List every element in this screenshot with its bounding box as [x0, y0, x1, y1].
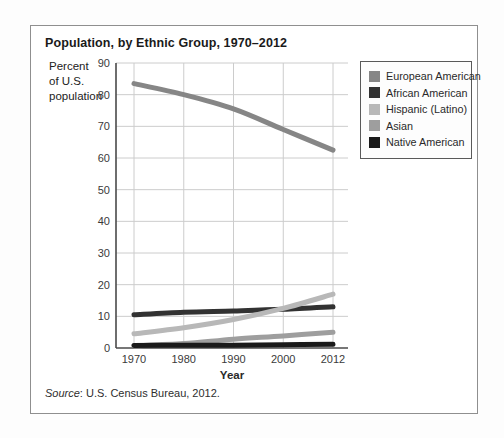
legend-swatch-icon	[369, 71, 380, 82]
x-tick-label: 2012	[321, 353, 345, 365]
x-tick-label: 2000	[271, 353, 295, 365]
source-note: Source: U.S. Census Bureau, 2012.	[45, 387, 220, 399]
y-tick-label: 90	[98, 57, 110, 69]
legend-label: Hispanic (Latino)	[386, 103, 467, 115]
y-tick-label: 80	[98, 89, 110, 101]
legend-swatch-icon	[369, 87, 380, 98]
y-tick-label: 0	[104, 342, 110, 354]
y-tick-label: 60	[98, 152, 110, 164]
source-text: : U.S. Census Bureau, 2012.	[80, 387, 220, 399]
legend-item: Asian	[369, 119, 463, 133]
legend-item: African American	[369, 86, 463, 100]
legend-item: Hispanic (Latino)	[369, 102, 463, 116]
figure-frame: Population, by Ethnic Group, 1970–2012 P…	[30, 25, 478, 414]
legend-swatch-icon	[369, 120, 380, 131]
x-tick-label: 1990	[221, 353, 245, 365]
legend-label: Asian	[386, 120, 413, 132]
legend-swatch-icon	[369, 137, 380, 148]
legend-label: African American	[386, 87, 468, 99]
legend-label: European American	[386, 70, 481, 82]
y-tick-label: 30	[98, 247, 110, 259]
y-tick-label: 20	[98, 279, 110, 291]
legend-label: Native American	[386, 136, 465, 148]
y-tick-label: 70	[98, 120, 110, 132]
x-tick-label: 1970	[122, 353, 146, 365]
legend-item: European American	[369, 69, 463, 83]
legend-swatch-icon	[369, 104, 380, 115]
legend-item: Native American	[369, 135, 463, 149]
y-tick-label: 50	[98, 184, 110, 196]
y-tick-label: 10	[98, 310, 110, 322]
x-axis-label: Year	[116, 369, 348, 381]
y-tick-label: 40	[98, 215, 110, 227]
chart-legend: European AmericanAfrican AmericanHispani…	[360, 61, 472, 159]
series-line-native-american	[134, 344, 333, 345]
source-label: Source	[45, 387, 80, 399]
x-tick-label: 1980	[172, 353, 196, 365]
